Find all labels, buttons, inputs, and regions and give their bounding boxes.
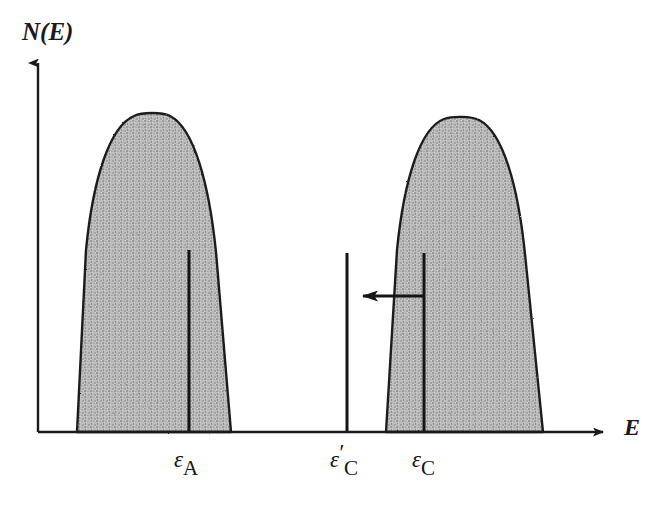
subscript-glyph: A <box>183 456 198 480</box>
epsilon-glyph: ε <box>174 447 183 472</box>
tick-label-epsilon-c-prime: ε′C <box>330 448 358 471</box>
density-of-states-figure: N(E) E εA ε′C εC <box>0 0 668 511</box>
substrate-band-area <box>386 117 543 432</box>
subscript-glyph: C <box>344 456 358 480</box>
y-axis-label: N(E) <box>22 18 73 46</box>
prime-glyph: ′ <box>338 440 343 465</box>
substrate-band-group <box>386 117 543 432</box>
adatom-band-group <box>77 113 231 432</box>
x-axis-label: E <box>624 414 640 441</box>
tick-label-epsilon-a: εA <box>174 448 198 471</box>
epsilon-glyph: ε <box>412 447 421 472</box>
tick-label-epsilon-c: εC <box>412 448 435 471</box>
subscript-glyph: C <box>421 456 435 480</box>
adatom-band-area <box>77 113 231 432</box>
plot-canvas <box>0 0 668 511</box>
